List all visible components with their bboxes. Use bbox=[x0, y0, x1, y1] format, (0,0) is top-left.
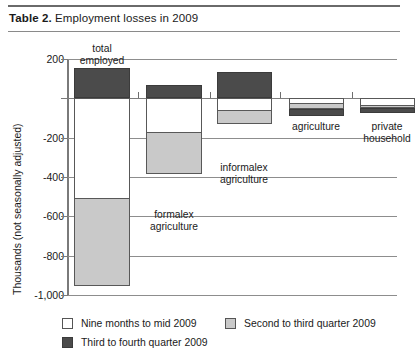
legend-item-second-to-third-quarter-2009[interactable]: Second to third quarter 2009 bbox=[225, 318, 376, 329]
legend-label-nine-months-to-mid-2009: Nine months to mid 2009 bbox=[81, 318, 197, 329]
y-tick--400 bbox=[61, 177, 68, 178]
category-label-informal-ex-agriculture: informalex agriculture bbox=[211, 162, 277, 185]
segment-third-fourth-formal-ex-agriculture[interactable] bbox=[146, 85, 202, 99]
legend-swatch-third-to-fourth-quarter-2009 bbox=[62, 337, 73, 348]
legend-item-nine-months-to-mid-2009[interactable]: Nine months to mid 2009 bbox=[62, 318, 197, 329]
x-tick-0 bbox=[138, 92, 139, 98]
segment-third-fourth-total-employed[interactable] bbox=[74, 68, 130, 98]
category-label-formal-ex-agriculture: formalex agriculture bbox=[144, 209, 204, 232]
y-tick--1000 bbox=[61, 295, 68, 296]
segment-second-third-formal-ex-agriculture[interactable] bbox=[146, 132, 202, 174]
figure-title: Table 2. Employment losses in 2009 bbox=[9, 12, 198, 24]
bar-agriculture[interactable] bbox=[289, 59, 344, 295]
y-tick-0 bbox=[61, 98, 68, 99]
segment-third-fourth-informal-ex-agriculture[interactable] bbox=[217, 72, 272, 99]
bar-total-employed[interactable] bbox=[74, 59, 130, 295]
bar-formal-ex-agriculture[interactable] bbox=[146, 59, 202, 295]
x-tick-2 bbox=[280, 92, 281, 98]
figure-title-text: Employment losses in 2009 bbox=[55, 12, 198, 24]
figure-label: Table 2. bbox=[9, 12, 52, 24]
title-underline-rule bbox=[8, 31, 400, 32]
category-label-agriculture: agriculture bbox=[285, 121, 347, 133]
legend-swatch-second-to-third-quarter-2009 bbox=[225, 318, 236, 329]
segment-third-fourth-private-household[interactable] bbox=[360, 108, 415, 113]
y-tick--600 bbox=[61, 216, 68, 217]
y-axis-label--1000: -1,000 bbox=[34, 289, 64, 301]
chart-plot-area: total employedformalex agricultureinform… bbox=[67, 59, 397, 295]
segment-second-third-total-employed[interactable] bbox=[74, 198, 130, 286]
segment-nine-months-total-employed[interactable] bbox=[74, 98, 130, 199]
legend-label-third-to-fourth-quarter-2009: Third to fourth quarter 2009 bbox=[81, 337, 208, 348]
y-tick--800 bbox=[61, 256, 68, 257]
y-tick--200 bbox=[61, 138, 68, 139]
bar-private-household[interactable] bbox=[360, 59, 415, 295]
x-tick-1 bbox=[210, 92, 211, 98]
segment-third-fourth-agriculture[interactable] bbox=[289, 109, 344, 116]
segment-nine-months-formal-ex-agriculture[interactable] bbox=[146, 98, 202, 132]
x-tick-3 bbox=[352, 92, 353, 98]
top-rule bbox=[8, 5, 400, 7]
legend-item-third-to-fourth-quarter-2009[interactable]: Third to fourth quarter 2009 bbox=[62, 337, 208, 348]
y-axis-labels: 200-200-400-600-800-1,000 bbox=[0, 59, 64, 295]
category-label-private-household: private household bbox=[356, 121, 418, 144]
gridline--1000 bbox=[67, 295, 397, 296]
segment-second-third-informal-ex-agriculture[interactable] bbox=[217, 110, 272, 124]
legend-label-second-to-third-quarter-2009: Second to third quarter 2009 bbox=[244, 318, 376, 329]
category-label-total-employed: total employed bbox=[74, 43, 130, 66]
y-tick-200 bbox=[61, 59, 68, 60]
legend-swatch-nine-months-to-mid-2009 bbox=[62, 318, 73, 329]
chart-legend: Nine months to mid 2009Second to third q… bbox=[0, 318, 408, 358]
